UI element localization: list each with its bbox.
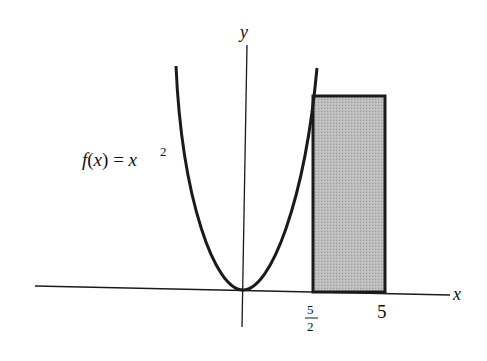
y-axis [242,45,247,327]
riemann-rectangle-diagram: y x f(x) = x 2 5 2 5 [0,0,487,361]
y-axis-label: y [238,22,248,42]
x-axis-label: x [452,284,461,304]
tick-label-5: 5 [377,301,387,322]
function-label: f(x) = x [82,149,138,171]
approximating-rectangle [313,96,385,292]
tick-label-5-over-2-numerator: 5 [307,302,314,317]
tick-label-5-over-2-denominator: 2 [307,319,314,334]
function-exponent: 2 [160,144,167,159]
